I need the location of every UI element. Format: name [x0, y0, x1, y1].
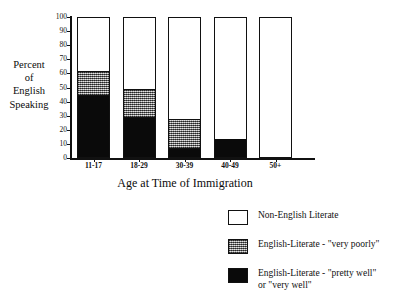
y-tick-mark: [67, 158, 70, 159]
x-tick-mark: [185, 159, 186, 162]
legend-item: English-Literate - "pretty well" or "ver…: [228, 268, 400, 291]
bar-segment-black: [124, 118, 155, 157]
y-axis-label: Percent of English Speaking: [2, 58, 56, 111]
y-axis-label-line-2: of: [2, 71, 56, 84]
y-tick-label: 10: [60, 140, 68, 148]
plot-area: 0102030405060708090100 11-1718-2930-3940…: [70, 17, 315, 158]
y-tick-mark: [67, 116, 70, 117]
legend-swatch-white: [228, 210, 248, 225]
x-tick-label-40-49: 40-49: [210, 162, 250, 170]
y-tick-label: 20: [60, 126, 68, 134]
y-tick-mark: [67, 130, 70, 131]
y-tick-label: 40: [60, 98, 68, 106]
y-axis-label-line-1: Percent: [2, 58, 56, 71]
bar-segment-black: [169, 149, 200, 157]
x-axis-line: [70, 158, 315, 160]
legend-label: English-Literate - "pretty well" or "ver…: [258, 268, 400, 291]
y-tick-mark: [67, 45, 70, 46]
x-axis-label: Age at Time of Immigration: [60, 176, 310, 191]
x-tick-label-30-39: 30-39: [165, 162, 205, 170]
chart-figure: Percent of English Speaking 010203040506…: [0, 0, 400, 298]
y-tick-label: 90: [60, 27, 68, 35]
bar-30-39: [168, 17, 201, 158]
legend-label: Non-English Literate: [258, 210, 400, 222]
y-axis-label-line-4: Speaking: [2, 98, 56, 111]
y-tick-label: 60: [60, 70, 68, 78]
y-tick-mark: [67, 144, 70, 145]
y-tick-mark: [67, 88, 70, 89]
y-tick-label: 80: [60, 41, 68, 49]
legend-swatch-gray: [228, 239, 248, 254]
bar-11-17: [77, 17, 110, 158]
x-tick-mark: [276, 159, 277, 162]
y-axis-line: [70, 16, 72, 158]
legend-item: English-Literate - "very poorly": [228, 239, 400, 256]
bar-50+: [259, 17, 292, 158]
y-tick-mark: [67, 102, 70, 103]
x-tick-mark: [94, 159, 95, 162]
y-axis-label-line-3: English: [2, 84, 56, 97]
x-tick-label-11-17: 11-17: [74, 162, 114, 170]
legend-item: Non-English Literate: [228, 210, 400, 227]
legend-label: English-Literate - "very poorly": [258, 239, 400, 251]
bar-segment-black: [215, 139, 246, 157]
y-tick-mark: [67, 59, 70, 60]
bar-18-29: [123, 17, 156, 158]
bar-segment-black: [78, 96, 109, 157]
y-tick-label: 30: [60, 112, 68, 120]
x-tick-label-50+: 50+: [256, 162, 296, 170]
chart-legend: Non-English LiterateEnglish-Literate - "…: [228, 210, 400, 298]
y-tick-label: 70: [60, 56, 68, 64]
bar-segment-gray: [78, 71, 109, 96]
bar-40-49: [214, 17, 247, 158]
y-tick-mark: [67, 17, 70, 18]
x-tick-mark: [230, 159, 231, 162]
bar-segment-gray: [124, 89, 155, 117]
x-tick-mark: [139, 159, 140, 162]
y-tick-label: 100: [56, 13, 67, 21]
y-tick-label: 50: [60, 84, 68, 92]
y-tick-mark: [67, 73, 70, 74]
bar-segment-gray: [169, 119, 200, 149]
y-tick-mark: [67, 31, 70, 32]
legend-swatch-black: [228, 268, 248, 283]
x-tick-label-18-29: 18-29: [119, 162, 159, 170]
